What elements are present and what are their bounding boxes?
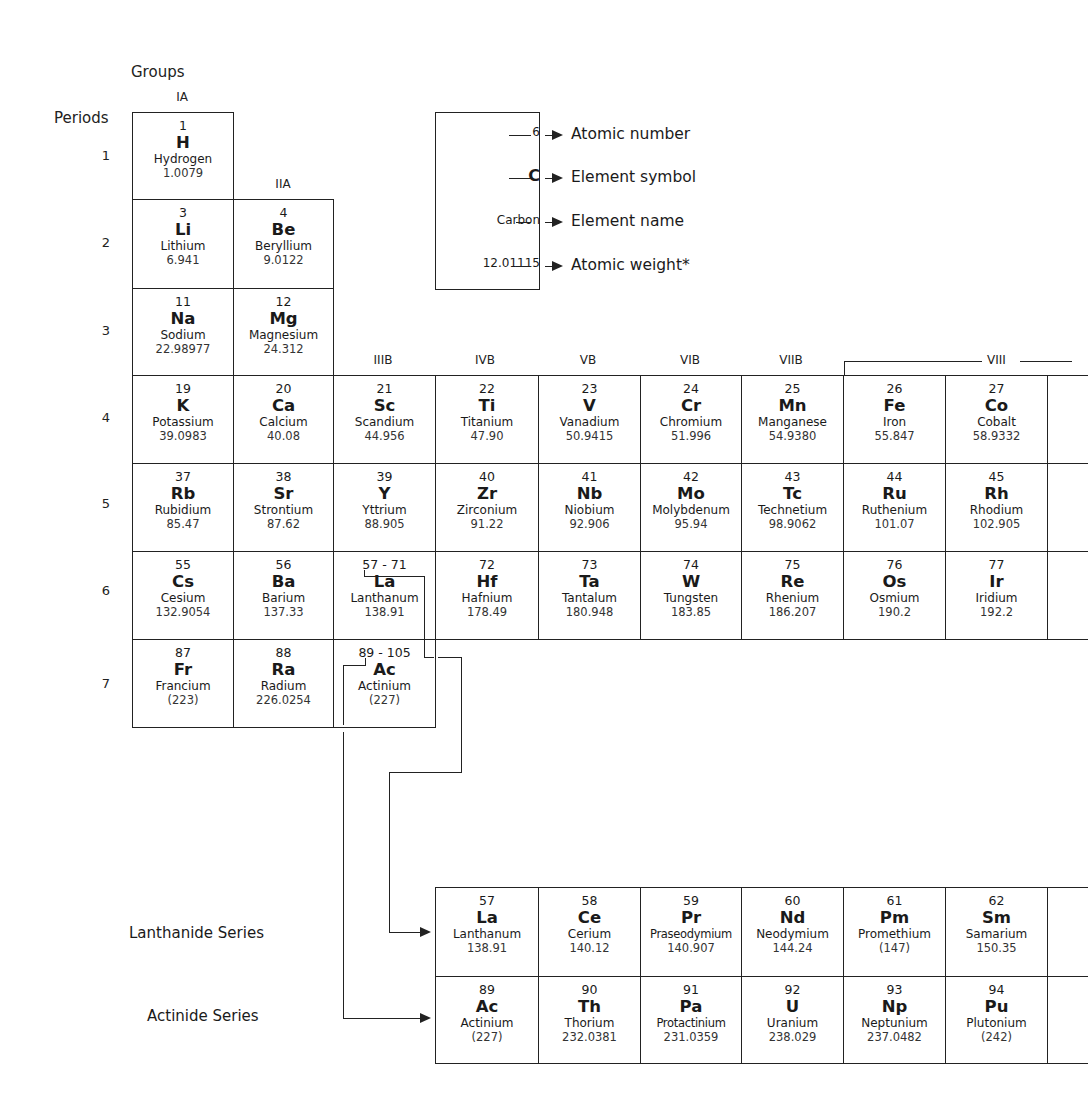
element-Hf: 72 Hf Hafnium 178.49 — [435, 551, 539, 640]
legend-example-number: 6 — [532, 125, 540, 139]
atomic-number: 19 — [133, 381, 233, 396]
legend-dash-symbol — [509, 178, 531, 179]
atomic-weight: 47.90 — [436, 429, 538, 443]
element-symbol: Nd — [742, 908, 843, 927]
atomic-weight: 58.9332 — [946, 429, 1047, 443]
element-name: Cesium — [133, 591, 233, 605]
element-name: Osmium — [844, 591, 945, 605]
element-symbol: Ac — [334, 660, 435, 679]
element-name: Iron — [844, 415, 945, 429]
atomic-number: 59 — [641, 893, 741, 908]
element-symbol: Ti — [436, 396, 538, 415]
element-symbol: Re — [742, 572, 843, 591]
atomic-weight: 24.312 — [234, 342, 333, 356]
lanthanide-connector — [364, 576, 425, 577]
group-header-IA: IA — [132, 90, 232, 104]
actinide-connector — [343, 665, 344, 725]
atomic-number: 44 — [844, 469, 945, 484]
element-name: Scandium — [334, 415, 435, 429]
element-symbol: V — [539, 396, 640, 415]
element-symbol: Be — [234, 220, 333, 239]
atomic-number: 40 — [436, 469, 538, 484]
legend-desc-symbol: Element symbol — [571, 168, 696, 186]
element-name: Barium — [234, 591, 333, 605]
element-Cr: 24 Cr Chromium 51.996 — [640, 375, 742, 464]
element-name: Tantalum — [539, 591, 640, 605]
element-symbol: Ce — [539, 908, 640, 927]
atomic-number: 26 — [844, 381, 945, 396]
element-name: Technetium — [742, 503, 843, 517]
atomic-number: 58 — [539, 893, 640, 908]
atomic-number: 89 — [436, 982, 538, 997]
element-name: Vanadium — [539, 415, 640, 429]
atomic-number: 77 — [946, 557, 1047, 572]
series-continuation — [1047, 887, 1088, 888]
element-Ru: 44 Ru Ruthenium 101.07 — [843, 463, 946, 552]
atomic-number: 24 — [641, 381, 741, 396]
element-Ca: 20 Ca Calcium 40.08 — [233, 375, 334, 464]
atomic-number: 4 — [234, 205, 333, 220]
element-name: Plutonium — [946, 1016, 1047, 1030]
element-name: Uranium — [742, 1016, 843, 1030]
atomic-weight: 144.24 — [742, 941, 843, 955]
element-symbol: Pr — [641, 908, 741, 927]
lanthanide-connector — [389, 772, 390, 933]
actinide-series-label: Actinide Series — [147, 1007, 259, 1025]
group-header-VIB: VIB — [640, 353, 740, 367]
atomic-weight: 190.2 — [844, 605, 945, 619]
atomic-weight: 54.9380 — [742, 429, 843, 443]
element-symbol: H — [133, 133, 233, 152]
element-name: Zirconium — [436, 503, 538, 517]
lanthanide-connector — [438, 657, 462, 658]
legend-dash-name — [516, 222, 531, 223]
atomic-weight: 192.2 — [946, 605, 1047, 619]
element-Be: 4 Be Beryllium 9.0122 — [233, 199, 334, 289]
element-symbol: Tc — [742, 484, 843, 503]
atomic-weight: 6.941 — [133, 253, 233, 267]
atomic-number: 41 — [539, 469, 640, 484]
element-name: Ruthenium — [844, 503, 945, 517]
element-symbol: Mg — [234, 309, 333, 328]
element-name: Molybdenum — [641, 503, 741, 517]
atomic-number: 88 — [234, 645, 333, 660]
element-name: Lanthanum — [436, 927, 538, 941]
element-symbol: Pm — [844, 908, 945, 927]
lanthanide-series-label: Lanthanide Series — [129, 924, 264, 942]
element-symbol: U — [742, 997, 843, 1016]
element-symbol: Na — [133, 309, 233, 328]
element-symbol: Mo — [641, 484, 741, 503]
atomic-weight: 91.22 — [436, 517, 538, 531]
element-symbol: Fe — [844, 396, 945, 415]
atomic-weight: (147) — [844, 941, 945, 955]
element-symbol: Ir — [946, 572, 1047, 591]
groups-label: Groups — [131, 63, 184, 81]
element-symbol: Rh — [946, 484, 1047, 503]
element-name: Strontium — [234, 503, 333, 517]
atomic-weight: 102.905 — [946, 517, 1047, 531]
element-Ac-placeholder: 89 - 105 Ac Actinium (227) — [333, 639, 436, 728]
atomic-weight: 101.07 — [844, 517, 945, 531]
atomic-number: 3 — [133, 205, 233, 220]
lanthanide-Sm: 62 Sm Samarium 150.35 — [945, 887, 1048, 977]
atomic-weight: 92.906 — [539, 517, 640, 531]
element-name: Cerium — [539, 927, 640, 941]
atomic-number: 27 — [946, 381, 1047, 396]
element-Rb: 37 Rb Rubidium 85.47 — [132, 463, 234, 552]
atomic-weight: (227) — [436, 1030, 538, 1044]
atomic-number: 74 — [641, 557, 741, 572]
element-Tc: 43 Tc Technetium 98.9062 — [741, 463, 844, 552]
element-Ti: 22 Ti Titanium 47.90 — [435, 375, 539, 464]
element-Mn: 25 Mn Manganese 54.9380 — [741, 375, 844, 464]
atomic-number: 73 — [539, 557, 640, 572]
group-header-IVB: IVB — [435, 353, 535, 367]
atomic-number: 38 — [234, 469, 333, 484]
element-Na: 11 Na Sodium 22.98977 — [132, 288, 234, 376]
element-Rh: 45 Rh Rhodium 102.905 — [945, 463, 1048, 552]
arrow-right-icon — [552, 173, 563, 183]
atomic-weight: 237.0482 — [844, 1030, 945, 1044]
atomic-number: 55 — [133, 557, 233, 572]
element-W: 74 W Tungsten 183.85 — [640, 551, 742, 640]
element-name: Promethium — [844, 927, 945, 941]
element-symbol: Y — [334, 484, 435, 503]
atomic-number: 93 — [844, 982, 945, 997]
